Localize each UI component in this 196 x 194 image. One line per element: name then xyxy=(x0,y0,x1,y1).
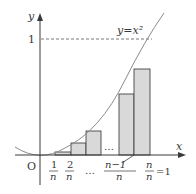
svg-text:n: n xyxy=(50,171,56,182)
rect-3 xyxy=(86,131,101,155)
curve-label: y=x² xyxy=(116,24,143,37)
origin-label: O xyxy=(27,160,36,173)
rectangles xyxy=(55,69,150,155)
tick-n-minus-1-over-n: n−1 n xyxy=(104,159,136,182)
rects-ellipsis: … xyxy=(104,141,114,152)
svg-text:n: n xyxy=(146,159,152,170)
rect-2 xyxy=(71,143,86,155)
x-axis-label: x xyxy=(176,140,183,153)
axis-ellipsis: … xyxy=(85,165,95,176)
svg-text:n: n xyxy=(66,171,72,182)
y-axis-label: y xyxy=(27,10,35,23)
tick-2-over-n: 2 n xyxy=(65,159,74,182)
y-axis-arrow-icon xyxy=(37,13,43,21)
svg-text:1: 1 xyxy=(51,159,57,170)
rect-n xyxy=(134,69,150,155)
svg-text:n: n xyxy=(146,171,152,182)
riemann-sum-diagram: y 1 y=x² x O … 1 n 2 n … n−1 n n n =1 xyxy=(0,0,196,194)
svg-text:n: n xyxy=(116,171,122,182)
rect-n-1 xyxy=(119,94,134,155)
svg-text:n−1: n−1 xyxy=(105,159,126,170)
svg-text:2: 2 xyxy=(67,159,73,170)
tick-1-over-n: 1 n xyxy=(49,159,58,182)
tick-n-over-n: n n =1 xyxy=(145,159,171,182)
y-tick-1-label: 1 xyxy=(28,33,35,46)
svg-text:=1: =1 xyxy=(156,166,171,177)
